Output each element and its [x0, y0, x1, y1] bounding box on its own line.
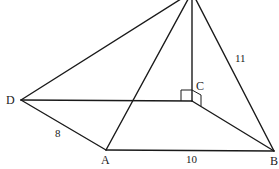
vertex-label-c: C: [196, 79, 204, 93]
length-label-pb: 11: [235, 52, 246, 64]
vertex-label-d: D: [6, 93, 15, 107]
edge-a-b: [106, 150, 274, 151]
edge-apex-d: [21, 0, 192, 100]
edge-d-c: [21, 100, 192, 101]
length-label-da: 8: [55, 127, 61, 139]
vertex-label-b: B: [270, 154, 278, 168]
length-label-ab: 10: [186, 153, 198, 165]
edge-d-a: [21, 100, 106, 150]
edge-apex-b: [192, 0, 274, 151]
edge-apex-a: [106, 0, 192, 150]
pyramid-diagram: D C A B 8 10 11: [0, 0, 279, 169]
right-angle-marker-left: [181, 90, 192, 101]
vertex-label-a: A: [101, 153, 110, 167]
